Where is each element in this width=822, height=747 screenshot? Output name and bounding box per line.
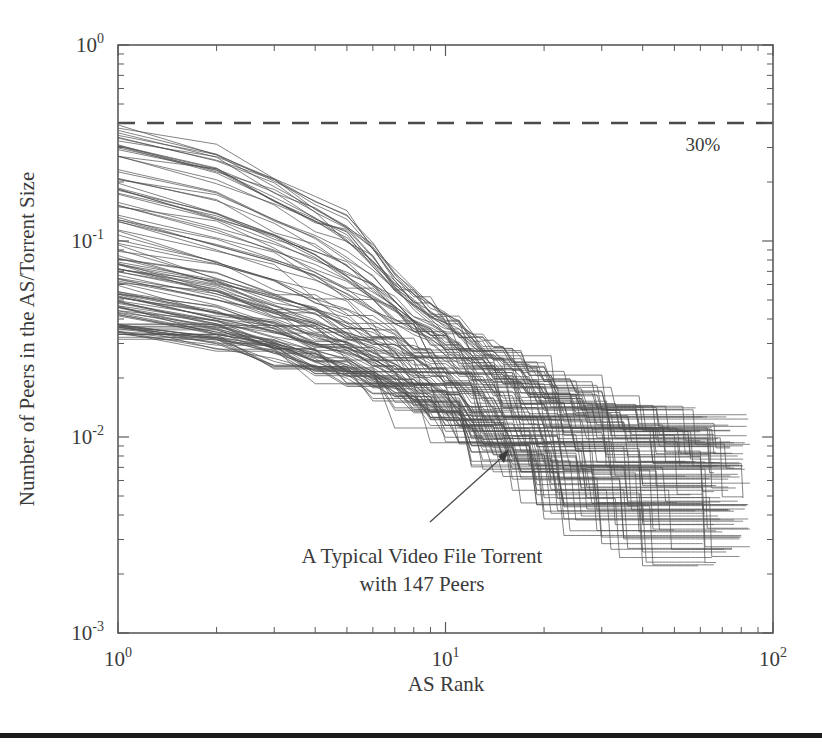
callout-text-line1: A Typical Video File Torrent <box>302 544 543 568</box>
chart-svg: 30% 100101102 10010-110-210-3 AS Rank Nu… <box>0 0 822 747</box>
page-bottom-rule <box>0 733 822 738</box>
threshold-label: 30% <box>686 134 721 155</box>
y-axis-title: Number of Peers in the AS/Torrent Size <box>15 172 39 506</box>
figure-panel: 30% 100101102 10010-110-210-3 AS Rank Nu… <box>0 0 822 747</box>
callout-text-line2: with 147 Peers <box>360 572 485 596</box>
figure-background <box>0 0 822 747</box>
x-axis-title: AS Rank <box>408 672 485 696</box>
